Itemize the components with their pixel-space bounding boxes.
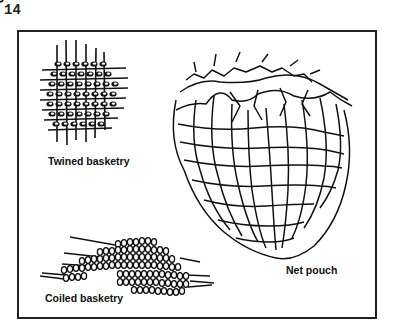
twined-basketry-texture — [0, 0, 4, 3]
caption-net-pouch: Net pouch — [286, 264, 337, 276]
caption-twined-basketry: Twined basketry — [48, 155, 130, 167]
caption-coiled-basketry: Coiled basketry — [45, 292, 123, 304]
coiled-stitches — [61, 238, 188, 296]
net-pouch-illustration — [173, 52, 352, 259]
